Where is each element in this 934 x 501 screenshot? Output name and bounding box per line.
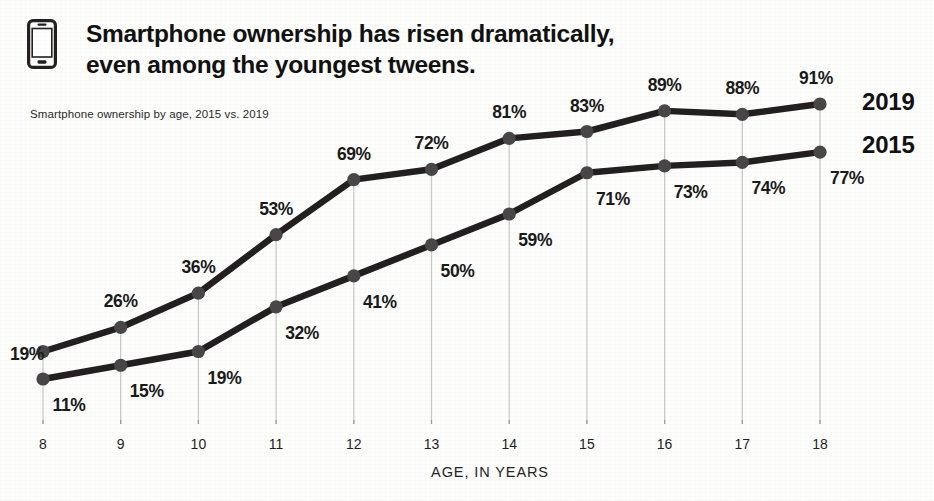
data-point (114, 359, 127, 372)
data-point (580, 125, 593, 138)
x-tick-label: 15 (579, 436, 595, 452)
x-tick-label: 11 (269, 436, 284, 452)
data-point (270, 228, 283, 241)
data-point (658, 159, 671, 172)
data-point (503, 132, 516, 145)
data-label-2019: 36% (181, 257, 215, 278)
line-chart: 19%26%36%53%69%72%81%83%89%88%91% 11%15%… (0, 0, 934, 501)
data-point (580, 166, 593, 179)
x-tick-label: 9 (117, 436, 125, 452)
chart-canvas (0, 0, 934, 501)
data-label-2015: 77% (830, 168, 864, 189)
data-label-2015: 15% (130, 381, 164, 402)
data-point (36, 372, 49, 385)
data-point (192, 345, 205, 358)
data-label-2015: 41% (363, 291, 397, 312)
x-axis-line (43, 420, 820, 424)
data-point (425, 238, 438, 251)
data-label-2015: 73% (674, 181, 708, 202)
series-label-2015: 2015 (862, 131, 915, 159)
data-label-2015: 19% (207, 367, 241, 388)
data-label-2019: 81% (492, 102, 526, 123)
data-point (192, 286, 205, 299)
data-point (503, 207, 516, 220)
x-tick-label: 13 (424, 436, 440, 452)
chart-page: Smartphone ownership has risen dramatica… (0, 0, 934, 501)
x-tick-label: 8 (39, 436, 47, 452)
data-point (736, 156, 749, 169)
x-tick-label: 14 (501, 436, 517, 452)
data-label-2019: 88% (725, 78, 759, 99)
data-label-2019: 72% (415, 133, 449, 154)
data-point (425, 163, 438, 176)
data-point (114, 321, 127, 334)
data-label-2019: 19% (10, 343, 44, 364)
data-label-2015: 50% (441, 260, 475, 281)
data-point (658, 104, 671, 117)
data-point (736, 108, 749, 121)
data-label-2015: 32% (285, 322, 319, 343)
x-tick-label: 18 (812, 436, 828, 452)
data-label-2015: 74% (751, 178, 785, 199)
data-label-2019: 69% (337, 143, 371, 164)
data-label-2015: 11% (53, 395, 86, 416)
x-axis-title: AGE, IN YEARS (431, 464, 549, 480)
data-point (270, 300, 283, 313)
data-label-2019: 83% (570, 95, 604, 116)
series-label-2019: 2019 (862, 88, 915, 116)
x-tick-label: 10 (191, 436, 207, 452)
data-point (347, 269, 360, 282)
data-label-2019: 26% (104, 291, 138, 312)
data-label-2019: 91% (799, 68, 833, 89)
x-tick-label: 12 (346, 436, 362, 452)
data-point (347, 173, 360, 186)
data-label-2015: 71% (596, 188, 630, 209)
data-label-2015: 59% (518, 230, 552, 251)
x-tick-label: 16 (657, 436, 673, 452)
data-point (813, 146, 826, 159)
x-tick-label: 17 (735, 436, 751, 452)
data-label-2019: 89% (648, 74, 682, 95)
data-point (813, 97, 826, 110)
data-label-2019: 53% (259, 198, 293, 219)
